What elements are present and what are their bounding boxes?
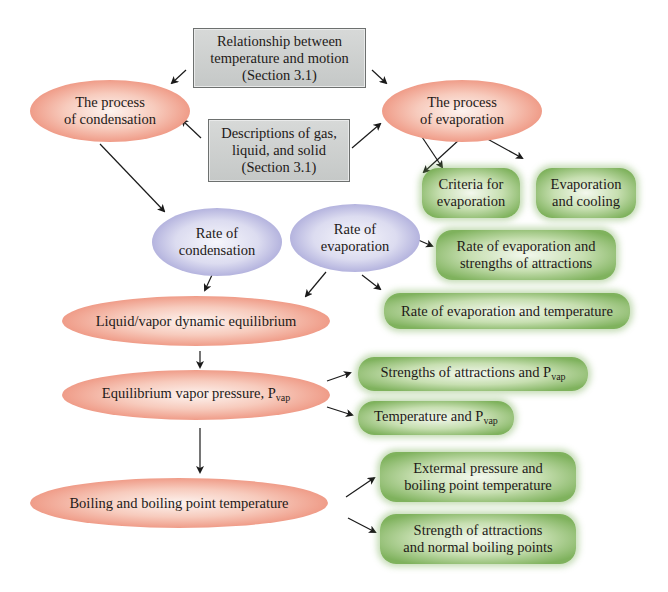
node-line: Rate of [196, 225, 238, 242]
arrow-condensation-rate-to-equilibrium [205, 275, 212, 290]
box-line: (Section 3.1) [242, 67, 317, 84]
node-evaporation-process: The process of evaporation [382, 80, 542, 142]
arrow-pressure-to-attractions [327, 373, 350, 381]
node-line: Extermal pressure and [413, 460, 543, 477]
node-criteria-evaporation: Criteria for evaporation [422, 168, 520, 218]
node-label: Strengths of attractions and Pvap [380, 364, 565, 385]
node-label: Boiling and boiling point temperature [69, 495, 288, 512]
node-temperature-pvap: Temperature and Pvap [358, 401, 514, 435]
node-dynamic-equilibrium: Liquid/vapor dynamic equilibrium [62, 296, 330, 346]
subscript: vap [551, 371, 565, 382]
node-attractions-pvap: Strengths of attractions and Pvap [358, 357, 588, 391]
node-rate-temperature: Rate of evaporation and temperature [384, 293, 630, 329]
label-text: Temperature and P [374, 408, 483, 424]
arrow-condensation-to-rate [100, 144, 164, 211]
node-rate-condensation: Rate of condensation [152, 208, 282, 276]
box-gas-liquid-solid: Descriptions of gas, liquid, and solid (… [208, 119, 350, 182]
node-rate-attractions: Rate of evaporation and strengths of att… [436, 230, 616, 280]
node-line: and normal boiling points [403, 539, 552, 556]
arrow-temp-to-evaporation [372, 70, 386, 83]
arrow-evaporation-to-criteria [422, 137, 442, 167]
arrow-rate-to-temperature [362, 275, 380, 289]
box-temperature-motion: Relationship between temperature and mot… [193, 28, 366, 88]
node-line: and cooling [552, 193, 620, 210]
box-line: liquid, and solid [232, 142, 326, 159]
node-line: Strength of attractions [414, 522, 543, 539]
arrow-temp-to-condensation [172, 70, 186, 83]
arrow-desc-to-evaporation [352, 124, 380, 148]
node-line: evaporation [321, 238, 389, 255]
box-line: Descriptions of gas, [221, 125, 337, 142]
node-rate-evaporation: Rate of evaporation [290, 204, 420, 272]
arrow-pressure-to-temperature [327, 407, 352, 415]
arrow-evaporation-rate-to-equilibrium [306, 272, 326, 296]
node-boiling: Boiling and boiling point temperature [30, 478, 328, 528]
node-line: The process [75, 94, 145, 111]
node-label: Rate of evaporation and temperature [401, 303, 613, 320]
node-line: of condensation [64, 111, 156, 128]
label-text: Equilibrium vapor pressure, P [102, 385, 276, 401]
box-line: (Section 3.1) [242, 159, 317, 176]
node-line: boiling point temperature [404, 477, 551, 494]
node-condensation-process: The process of condensation [30, 80, 190, 142]
node-line: of evaporation [420, 111, 504, 128]
arrow-boiling-to-normal [348, 518, 375, 532]
subscript: vap [276, 392, 290, 403]
node-line: Rate of evaporation and [457, 238, 596, 255]
node-label: Liquid/vapor dynamic equilibrium [96, 313, 297, 330]
node-label: Temperature and Pvap [374, 408, 498, 429]
box-line: temperature and motion [210, 50, 349, 67]
node-line: Criteria for [439, 176, 504, 193]
node-line: Rate of [334, 221, 376, 238]
node-vapor-pressure: Equilibrium vapor pressure, Pvap [62, 370, 330, 420]
node-line: strengths of attractions [460, 255, 592, 272]
arrow-desc-to-condensation [182, 120, 201, 138]
node-external-pressure: Extermal pressure and boiling point temp… [380, 452, 576, 502]
subscript: vap [483, 415, 497, 426]
arrow-boiling-to-external [346, 478, 374, 497]
node-line: The process [427, 94, 497, 111]
node-line: evaporation [437, 193, 505, 210]
node-line: Evaporation [551, 176, 622, 193]
node-label: Equilibrium vapor pressure, Pvap [102, 385, 290, 406]
box-line: Relationship between [217, 33, 342, 50]
label-text: Strengths of attractions and P [380, 364, 551, 380]
node-line: condensation [179, 242, 256, 259]
node-evaporation-cooling: Evaporation and cooling [536, 168, 636, 218]
node-normal-boiling: Strength of attractions and normal boili… [380, 514, 576, 564]
